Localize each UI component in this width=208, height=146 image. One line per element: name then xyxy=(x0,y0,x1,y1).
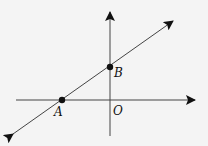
diagram-canvas: A B O xyxy=(0,0,208,146)
line-ab xyxy=(13,21,173,134)
label-origin: O xyxy=(113,104,123,118)
label-b: B xyxy=(113,66,123,80)
point-a xyxy=(59,97,65,103)
point-b xyxy=(107,64,113,70)
label-a: A xyxy=(53,105,63,119)
